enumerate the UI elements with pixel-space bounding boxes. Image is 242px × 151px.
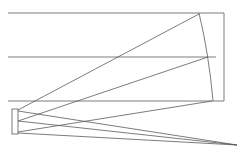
reflected-ray-middle <box>18 57 208 121</box>
focused-ray-2 <box>18 121 237 145</box>
focused-ray-3 <box>18 133 237 145</box>
reflected-ray-top <box>18 14 199 110</box>
optical-ray-diagram <box>0 0 242 151</box>
focused-ray-1 <box>18 111 237 145</box>
reflected-ray-bottom <box>18 101 212 132</box>
flat-mirror <box>12 109 18 134</box>
